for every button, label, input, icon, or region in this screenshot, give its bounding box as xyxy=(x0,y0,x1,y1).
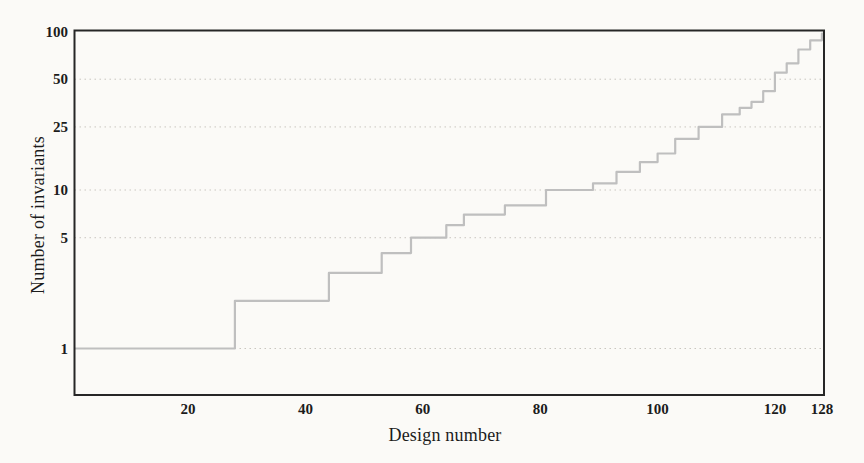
plot-frame xyxy=(75,31,825,396)
y-tick-label-1: 1 xyxy=(61,341,69,357)
y-tick-label-50: 50 xyxy=(53,71,68,87)
x-tick-label-100: 100 xyxy=(646,401,669,417)
y-tick-label-10: 10 xyxy=(53,182,68,198)
x-axis-title: Design number xyxy=(388,425,501,446)
x-tick-label-20: 20 xyxy=(180,401,195,417)
figure-canvas: 1510255010020406080100120128 Number of i… xyxy=(0,0,864,463)
x-tick-label-40: 40 xyxy=(298,401,313,417)
x-tick-label-60: 60 xyxy=(415,401,430,417)
series-step-line xyxy=(75,34,825,349)
y-tick-label-100: 100 xyxy=(46,24,69,40)
chart-plot: 1510255010020406080100120128 xyxy=(0,0,864,463)
x-tick-label-80: 80 xyxy=(533,401,548,417)
y-tick-label-25: 25 xyxy=(53,119,68,135)
x-tick-label-120: 120 xyxy=(764,401,787,417)
x-tick-label-128: 128 xyxy=(811,401,834,417)
y-tick-label-5: 5 xyxy=(61,230,69,246)
y-axis-title: Number of invariants xyxy=(28,136,49,294)
